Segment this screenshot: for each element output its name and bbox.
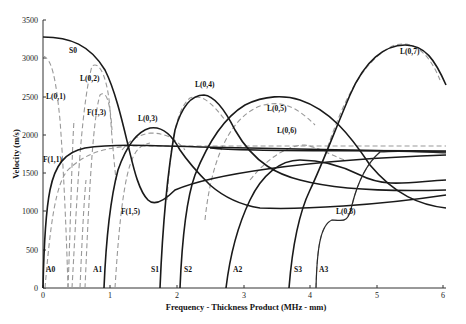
y-tick-label: 1000	[22, 207, 38, 216]
x-tick-label: 1	[108, 291, 112, 300]
label-F13: F(1,3)	[87, 108, 106, 117]
axes	[43, 20, 446, 288]
curve-A0	[43, 145, 446, 288]
label-A0: A0	[46, 265, 55, 274]
y-axis-title: Velocity (m/s)	[11, 129, 21, 179]
label-L04: L(0,4)	[195, 80, 215, 89]
dashed-curves	[43, 44, 446, 288]
label-S2: S2	[184, 265, 192, 274]
label-F11: F(1,1)	[43, 155, 62, 164]
label-L08: L(0,8)	[336, 207, 356, 216]
y-tick-label: 0	[34, 284, 38, 293]
x-tick-label: 3	[242, 291, 246, 300]
x-ticks: 0 1 2 3 4 5 6	[41, 285, 445, 300]
curve-F13b	[80, 180, 86, 288]
x-tick-label: 2	[175, 291, 179, 300]
y-tick-label: 3000	[22, 54, 38, 63]
label-A3: A3	[319, 265, 328, 274]
label-L03: L(0,3)	[138, 114, 158, 123]
y-tick-label: 500	[26, 246, 38, 255]
curve-F13	[85, 94, 112, 288]
x-axis-title: Frequency - Thickness Product (MHz - mm)	[166, 302, 327, 312]
x-tick-label: 6	[441, 291, 445, 300]
label-L01: L(0,1)	[46, 92, 66, 101]
curve-L07	[325, 44, 440, 155]
dispersion-chart: 0 500 1000 1500 2000 2500 3000 3500 0 1 …	[0, 0, 466, 324]
curve-L05	[205, 104, 315, 220]
curve-S0	[43, 37, 446, 203]
x-tick-label: 0	[41, 291, 45, 300]
label-S0: S0	[69, 46, 77, 55]
y-tick-label: 3500	[22, 16, 38, 25]
label-S1: S1	[151, 265, 159, 274]
label-A1: A1	[93, 265, 102, 274]
label-F15: F(1,5)	[121, 207, 140, 216]
label-L05: L(0,5)	[267, 104, 287, 113]
x-tick-label: 5	[375, 291, 379, 300]
y-tick-label: 2000	[22, 131, 38, 140]
label-L06: L(0,6)	[277, 126, 297, 135]
solid-curves	[43, 37, 446, 288]
y-tick-label: 2500	[22, 93, 38, 102]
y-tick-label: 1500	[22, 169, 38, 178]
curve-A3	[316, 151, 446, 288]
x-tick-label: 4	[308, 291, 312, 300]
label-A2: A2	[233, 265, 242, 274]
curve-A2	[226, 160, 446, 288]
label-S3: S3	[294, 265, 302, 274]
label-L02: L(0,2)	[80, 74, 100, 83]
curve-S1	[160, 95, 446, 288]
curve-L02	[72, 65, 116, 288]
label-L07: L(0,7)	[400, 47, 420, 56]
